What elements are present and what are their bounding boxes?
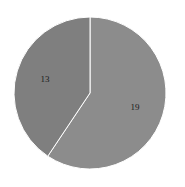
slice-label-13: 13 <box>40 74 50 84</box>
pie-chart: 19 13 <box>0 0 185 187</box>
slice-label-19: 19 <box>131 102 141 112</box>
